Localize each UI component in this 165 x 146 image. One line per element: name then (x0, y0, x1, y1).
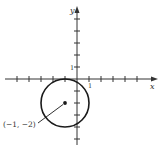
x-axis-label: x (150, 82, 155, 91)
y-tick-label-1: 1 (70, 64, 74, 72)
y-axis-arrow-icon (75, 6, 80, 13)
x-axis-arrow-icon (151, 77, 158, 82)
y-axis-label: y (69, 6, 75, 15)
center-point (63, 101, 67, 105)
coordinate-plane: y x 1 1 (−1, −2) (0, 0, 165, 146)
center-label: (−1, −2) (3, 120, 36, 129)
x-tick-label-1: 1 (88, 82, 92, 90)
